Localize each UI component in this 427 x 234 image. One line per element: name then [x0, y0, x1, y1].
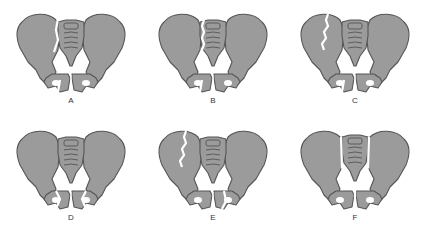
right-obturator-foramen — [366, 197, 374, 203]
sacrum — [200, 137, 226, 183]
sacrum — [342, 135, 368, 181]
panel-f: F — [284, 117, 426, 234]
panel-e: E — [142, 117, 284, 234]
pelvis — [17, 131, 125, 209]
sacrum — [58, 137, 84, 183]
pelvis — [301, 14, 409, 92]
left-obturator-foramen — [194, 197, 202, 203]
pelvis — [159, 131, 267, 209]
panel-a: A — [0, 0, 142, 117]
sacrum — [342, 20, 368, 66]
right-obturator-foramen — [224, 80, 232, 86]
panel-c: C — [284, 0, 426, 117]
pelvis — [301, 131, 409, 209]
pelvis — [17, 14, 125, 92]
panel-label: E — [142, 213, 284, 222]
panel-label: C — [284, 96, 426, 105]
panel-d: D — [0, 117, 142, 234]
sacrum — [58, 20, 84, 66]
right-obturator-foramen — [366, 80, 374, 86]
panel-label: A — [0, 96, 142, 105]
panel-label: D — [0, 213, 142, 222]
right-obturator-foramen — [82, 80, 90, 86]
panel-label: B — [142, 96, 284, 105]
pelvis — [159, 14, 267, 92]
left-obturator-foramen — [336, 197, 344, 203]
panel-label: F — [284, 213, 426, 222]
panel-b: B — [142, 0, 284, 117]
